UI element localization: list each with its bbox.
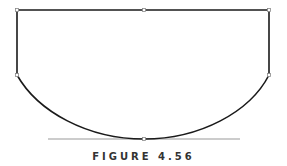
path-diagram bbox=[0, 0, 287, 166]
bezier-path bbox=[17, 10, 269, 139]
figure-caption: FIGURE 4.56 bbox=[0, 151, 287, 162]
figure: FIGURE 4.56 bbox=[0, 0, 287, 166]
anchor-right-mid[interactable] bbox=[268, 74, 271, 77]
anchor-top-left[interactable] bbox=[16, 9, 19, 12]
anchor-top-mid[interactable] bbox=[143, 9, 146, 12]
anchor-bottom[interactable] bbox=[143, 138, 146, 141]
anchor-points bbox=[16, 9, 271, 141]
anchor-top-right[interactable] bbox=[268, 9, 271, 12]
anchor-left-mid[interactable] bbox=[16, 74, 19, 77]
